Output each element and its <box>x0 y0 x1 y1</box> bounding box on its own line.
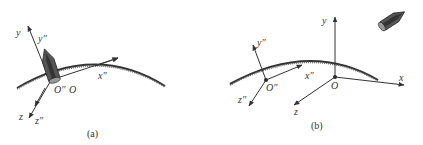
label-y-prime: y″ <box>256 37 266 48</box>
z-prime-axis-b <box>249 80 266 106</box>
label-y: y <box>15 27 21 38</box>
caption-b: (b) <box>311 120 323 132</box>
label-origin-prime: O″ <box>266 82 278 93</box>
x-axis-b <box>335 77 404 85</box>
diagram-canvas: y y″ x″ O″ O z z″ (a) y y″ x″ x <box>0 0 423 145</box>
label-origin: O <box>69 84 76 95</box>
panel-b: y y″ x″ x O″ O z″ z (b) <box>230 8 407 132</box>
label-x: x <box>398 72 404 83</box>
label-y-prime: y″ <box>37 33 47 44</box>
label-x-prime: x″ <box>97 70 107 81</box>
rocket-icon <box>39 47 61 84</box>
y-prime-axis-b <box>253 45 266 80</box>
label-z: z <box>18 111 23 122</box>
label-z: z <box>293 106 298 117</box>
earth-surface-hatch <box>17 66 165 89</box>
label-y: y <box>321 15 327 26</box>
earth-surface-arc <box>17 64 165 88</box>
caption-a: (a) <box>87 128 98 140</box>
label-origin-prime: O″ <box>54 84 66 95</box>
z-axis-a <box>29 82 50 118</box>
z-prime-axis-a <box>35 88 45 106</box>
label-z-prime: z″ <box>34 115 44 126</box>
earth-surface-arc <box>230 61 378 84</box>
label-x-prime: x″ <box>304 70 314 81</box>
z-axis-b <box>294 77 335 105</box>
label-z-prime: z″ <box>237 94 247 105</box>
label-origin: O <box>331 80 338 91</box>
panel-a: y y″ x″ O″ O z z″ (a) <box>15 26 165 140</box>
rocket-icon <box>377 8 407 32</box>
